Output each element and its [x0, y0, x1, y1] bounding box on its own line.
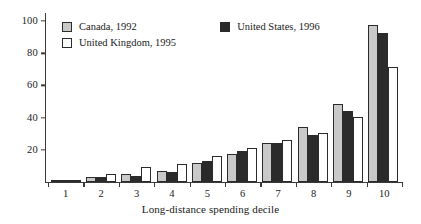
x-axis-tick-label: 8	[311, 189, 316, 200]
bar-united-kingdom-1995-decile-4	[177, 164, 187, 182]
legend-item-united-kingdom: United Kingdom, 1995	[62, 38, 176, 49]
bar-united-states-1996-decile-5	[202, 161, 212, 182]
bar-united-kingdom-1995-decile-10	[388, 67, 398, 182]
canada-swatch-icon	[62, 22, 72, 32]
x-axis-tick-mark	[225, 182, 226, 187]
x-axis-tick-label: 2	[98, 189, 103, 200]
bar-united-states-1996-decile-1	[61, 180, 71, 182]
bar-canada-1992-decile-6	[227, 154, 237, 182]
y-axis-tick-label: 40	[4, 112, 46, 123]
bar-united-kingdom-1995-decile-3	[141, 167, 151, 182]
bar-chart: 20406080100 12345678910 Long-distance sp…	[0, 0, 421, 224]
bar-canada-1992-decile-8	[298, 127, 308, 182]
legend-label-canada: Canada, 1992	[79, 22, 137, 33]
united-kingdom-swatch-icon	[62, 38, 72, 48]
bar-united-states-1996-decile-9	[343, 111, 353, 182]
x-axis-tick-label: 3	[134, 189, 139, 200]
bar-united-kingdom-1995-decile-6	[247, 148, 257, 182]
bar-canada-1992-decile-3	[121, 174, 131, 182]
bar-united-kingdom-1995-decile-1	[71, 180, 81, 182]
bar-united-kingdom-1995-decile-9	[353, 117, 363, 182]
legend-label-united-kingdom: United Kingdom, 1995	[79, 38, 176, 49]
bar-united-states-1996-decile-8	[308, 135, 318, 182]
bar-canada-1992-decile-2	[86, 177, 96, 182]
x-axis-tick-mark	[331, 182, 332, 187]
legend-label-united-states: United States, 1996	[237, 22, 320, 33]
bar-united-states-1996-decile-2	[96, 177, 106, 182]
x-axis-tick-mark	[119, 182, 120, 187]
bar-united-states-1996-decile-3	[131, 176, 141, 182]
y-axis-tick-label: 20	[4, 145, 46, 156]
x-axis-tick-label: 10	[379, 189, 390, 200]
x-axis-tick-mark	[83, 182, 84, 187]
legend-item-united-states: United States, 1996	[220, 22, 320, 33]
bar-united-states-1996-decile-4	[167, 172, 177, 182]
x-axis-tick-mark	[190, 182, 191, 187]
y-axis-tick-label: 60	[4, 80, 46, 91]
legend-item-canada: Canada, 1992	[62, 22, 176, 33]
decile-group	[366, 13, 401, 182]
x-axis-tick-mark	[260, 182, 261, 187]
bar-united-states-1996-decile-6	[237, 151, 247, 182]
y-axis-tick-label: 80	[4, 48, 46, 59]
x-axis-tick-label: 6	[240, 189, 245, 200]
x-axis-tick-label: 4	[169, 189, 174, 200]
chart-legend: Canada, 1992 United States, 1996 United …	[62, 22, 320, 48]
x-axis-tick-label: 9	[346, 189, 351, 200]
bar-united-kingdom-1995-decile-2	[106, 174, 116, 182]
bar-canada-1992-decile-4	[157, 171, 167, 182]
bar-united-states-1996-decile-10	[378, 33, 388, 182]
x-axis-tick-mark	[402, 182, 403, 187]
bar-united-kingdom-1995-decile-7	[282, 140, 292, 182]
bar-canada-1992-decile-10	[368, 25, 378, 182]
x-axis-tick-mark	[154, 182, 155, 187]
x-axis-tick-mark	[367, 182, 368, 187]
bar-united-kingdom-1995-decile-5	[212, 156, 222, 182]
x-axis-tick-label: 5	[205, 189, 210, 200]
bar-canada-1992-decile-5	[192, 163, 202, 182]
x-axis-tick-label: 1	[63, 189, 68, 200]
y-axis-tick-label: 100	[4, 16, 46, 27]
bar-canada-1992-decile-9	[333, 104, 343, 182]
decile-group	[330, 13, 365, 182]
bar-united-kingdom-1995-decile-8	[318, 133, 328, 182]
x-axis-tick-mark	[48, 182, 49, 187]
x-axis-tick-mark	[296, 182, 297, 187]
bar-canada-1992-decile-7	[262, 143, 272, 182]
bar-canada-1992-decile-1	[51, 180, 61, 182]
bar-united-states-1996-decile-7	[272, 143, 282, 182]
united-states-swatch-icon	[220, 22, 230, 32]
x-axis-tick-label: 7	[275, 189, 280, 200]
x-axis-title: Long-distance spending decile	[0, 203, 421, 215]
